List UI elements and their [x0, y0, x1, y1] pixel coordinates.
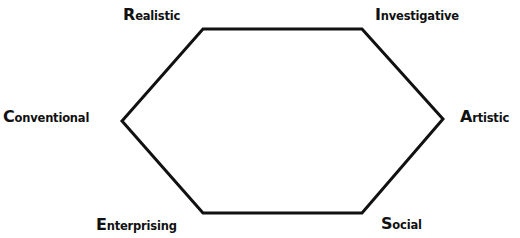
- label-conventional-rest: onventional: [15, 111, 90, 125]
- hexagon-outline: [122, 29, 443, 213]
- label-artistic: Artistic: [460, 109, 509, 125]
- label-conventional: Conventional: [3, 109, 89, 125]
- label-realistic-rest: ealistic: [135, 9, 180, 23]
- label-investigative: Investigative: [375, 7, 459, 23]
- label-artistic-rest: rtistic: [472, 111, 509, 125]
- label-artistic-initial: A: [460, 107, 472, 126]
- label-social-rest: ocial: [392, 218, 421, 232]
- label-enterprising-initial: E: [96, 215, 107, 234]
- label-realistic-initial: R: [123, 5, 135, 24]
- riasec-hexagon-diagram: Realistic Investigative Artistic Social …: [0, 0, 520, 238]
- label-investigative-rest: nvestigative: [381, 9, 459, 23]
- label-conventional-initial: C: [3, 107, 15, 126]
- label-enterprising: Enterprising: [96, 217, 177, 233]
- label-enterprising-rest: nterprising: [107, 219, 177, 233]
- label-realistic: Realistic: [123, 7, 180, 23]
- label-social-initial: S: [381, 214, 392, 233]
- label-social: Social: [381, 216, 422, 232]
